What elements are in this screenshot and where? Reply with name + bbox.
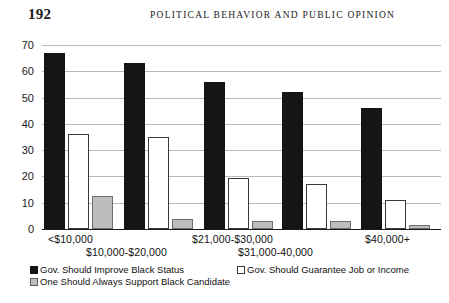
bar bbox=[306, 184, 327, 229]
bar bbox=[124, 63, 145, 229]
y-axis-tick-label: 70 bbox=[0, 40, 34, 51]
bar bbox=[68, 134, 89, 229]
y-axis-tick-label: 50 bbox=[0, 93, 34, 104]
chart-legend: Gov. Should Improve Black StatusGov. Sho… bbox=[0, 264, 449, 294]
legend-item[interactable]: One Should Always Support Black Candidat… bbox=[30, 276, 230, 287]
bar bbox=[330, 221, 351, 229]
legend-swatch-icon bbox=[30, 278, 38, 286]
bar bbox=[172, 219, 193, 230]
y-axis-tick-label: 10 bbox=[0, 198, 34, 209]
bar bbox=[361, 108, 382, 229]
bar bbox=[282, 92, 303, 229]
y-axis-tick-label: 0 bbox=[0, 224, 34, 235]
y-axis-tick-label: 40 bbox=[0, 119, 34, 130]
legend-item[interactable]: Gov. Should Improve Black Status bbox=[30, 264, 184, 275]
bar bbox=[44, 53, 65, 229]
x-axis-tick-label: $40,000+ bbox=[365, 233, 410, 245]
bar bbox=[385, 200, 406, 229]
legend-label: One Should Always Support Black Candidat… bbox=[40, 276, 230, 287]
legend-label: Gov. Should Improve Black Status bbox=[40, 264, 184, 275]
gridline bbox=[42, 71, 441, 72]
x-axis-tick-label: <$10,000 bbox=[48, 233, 93, 245]
running-head: POLITICAL BEHAVIOR AND PUBLIC OPINION bbox=[150, 10, 440, 20]
plot-area bbox=[42, 45, 441, 229]
gridline bbox=[42, 45, 441, 46]
x-axis-baseline bbox=[42, 229, 441, 230]
y-axis-tick-label: 30 bbox=[0, 145, 34, 156]
legend-swatch-icon bbox=[237, 266, 245, 274]
x-axis-tick-label: $31,000-40,000 bbox=[238, 246, 313, 258]
bar bbox=[252, 221, 273, 229]
x-axis-tick-label: $21,000-$30,000 bbox=[192, 233, 273, 245]
bar bbox=[228, 178, 249, 229]
bar bbox=[204, 82, 225, 229]
page-header: 192 POLITICAL BEHAVIOR AND PUBLIC OPINIO… bbox=[0, 0, 449, 32]
gridline bbox=[42, 98, 441, 99]
y-axis-tick-label: 60 bbox=[0, 66, 34, 77]
page-number: 192 bbox=[28, 6, 51, 23]
legend-label: Gov. Should Guarantee Job or Income bbox=[247, 264, 409, 275]
x-axis-tick-label: $10,000-$20,000 bbox=[86, 246, 167, 258]
bar bbox=[92, 196, 113, 229]
bar-chart: 010203040506070 <$10,000$10,000-$20,000$… bbox=[0, 32, 449, 303]
y-axis-tick-label: 20 bbox=[0, 171, 34, 182]
legend-swatch-icon bbox=[30, 266, 38, 274]
bar bbox=[148, 137, 169, 229]
legend-item[interactable]: Gov. Should Guarantee Job or Income bbox=[237, 264, 409, 275]
